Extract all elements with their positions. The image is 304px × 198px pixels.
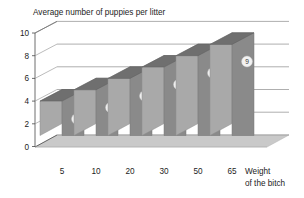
y-tick-label: 10 (20, 29, 30, 38)
y-tick-label: 4 (24, 97, 29, 106)
x-tick-label: 30 (159, 167, 169, 176)
x-tick-label: 10 (91, 167, 101, 176)
y-tick-label: 0 (24, 143, 29, 152)
x-tick-label: 50 (193, 167, 203, 176)
y-tick-label: 2 (24, 120, 29, 129)
chart-canvas: Average number of puppies per litter (0, 0, 304, 198)
x-tick-label: 20 (125, 167, 135, 176)
bar-side-face (176, 44, 198, 135)
bar-front-face (232, 33, 254, 136)
bar-value-label: 9 (245, 58, 249, 65)
bar-chart: Average number of puppies per litter (0, 0, 304, 198)
bar-column: 9 (210, 33, 254, 136)
chart-title: Average number of puppies per litter (33, 8, 166, 17)
x-tick-label: 65 (227, 167, 237, 176)
y-tick-label: 6 (24, 74, 29, 83)
bar-side-face (142, 56, 164, 136)
x-tick-label: 5 (60, 167, 65, 176)
bar-side-face (210, 33, 232, 136)
x-axis-label-line2: of the bitch (245, 179, 286, 188)
x-axis-label-line1: Weight (245, 167, 271, 176)
y-tick-label: 8 (24, 52, 29, 61)
chart-floor (35, 135, 289, 147)
